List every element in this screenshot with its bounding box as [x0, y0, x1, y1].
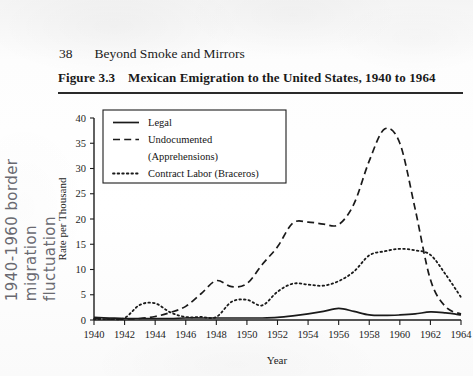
- y-tick-label: 35: [76, 138, 87, 149]
- x-axis-title: Year: [267, 354, 288, 366]
- x-tick-label: 1958: [359, 329, 380, 340]
- legend-label: Undocumented: [148, 134, 213, 145]
- legend-label: Contract Labor (Braceros): [148, 168, 259, 180]
- y-tick-label: 10: [76, 264, 87, 275]
- y-tick-label: 25: [76, 188, 87, 199]
- series-line-dotted: [94, 249, 461, 320]
- x-tick-label: 1944: [145, 329, 167, 340]
- figure-chart: 0510152025303540 19401942194419461948195…: [0, 96, 473, 376]
- y-axis-ticks: 0510152025303540: [76, 113, 95, 326]
- page-number: 38: [59, 46, 73, 61]
- caption-rule: [58, 92, 463, 94]
- legend-label: Legal: [148, 117, 172, 128]
- y-axis-title: Rate per Thousand: [56, 177, 68, 260]
- x-tick-label: 1950: [236, 329, 257, 340]
- x-tick-label: 1942: [114, 329, 135, 340]
- y-tick-label: 15: [76, 239, 87, 250]
- figure-caption: Figure 3.3Mexican Emigration to the Unit…: [58, 70, 436, 86]
- x-tick-label: 1952: [267, 329, 288, 340]
- book-page: 1940-1960 border migration fluctuation 3…: [0, 0, 473, 376]
- book-title: Beyond Smoke and Mirrors: [95, 46, 245, 61]
- series-line-solid: [94, 308, 461, 318]
- figure-number: Figure 3.3: [58, 70, 115, 85]
- x-tick-label: 1962: [420, 329, 441, 340]
- running-head: 38Beyond Smoke and Mirrors: [59, 46, 245, 62]
- y-tick-label: 0: [81, 315, 86, 326]
- y-tick-label: 40: [76, 113, 87, 124]
- x-tick-label: 1960: [389, 329, 410, 340]
- legend-label: (Apprehensions): [148, 151, 218, 163]
- line-chart-svg: 0510152025303540 19401942194419461948195…: [0, 96, 473, 376]
- x-tick-label: 1946: [175, 329, 196, 340]
- figure-title: Mexican Emigration to the United States,…: [128, 70, 436, 85]
- x-tick-label: 1940: [84, 329, 105, 340]
- chart-legend: LegalUndocumented(Apprehensions)Contract…: [103, 110, 286, 183]
- y-tick-label: 30: [76, 163, 87, 174]
- x-tick-label: 1954: [298, 329, 320, 340]
- x-tick-label: 1964: [451, 329, 473, 340]
- y-tick-label: 20: [76, 214, 87, 225]
- y-tick-label: 5: [81, 289, 86, 300]
- x-tick-label: 1948: [206, 329, 227, 340]
- x-axis-ticks: 1940194219441946194819501952195419561958…: [84, 320, 473, 340]
- x-tick-label: 1956: [328, 329, 349, 340]
